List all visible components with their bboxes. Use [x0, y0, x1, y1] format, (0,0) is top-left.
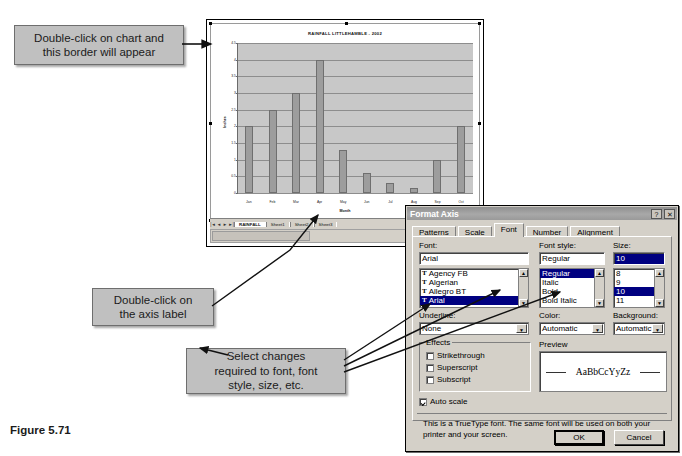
- resize-handle-middle-right[interactable]: [478, 122, 481, 125]
- font-option[interactable]: TAllegro BT: [420, 287, 519, 296]
- chart-title[interactable]: RAINFALL LITTLEHAMBLE - 2002: [211, 31, 479, 36]
- chart-bar[interactable]: [410, 188, 418, 193]
- chart-bar-cell[interactable]: [426, 43, 450, 193]
- truetype-icon: T: [422, 287, 427, 296]
- chart-y-axis-title[interactable]: Inches: [223, 116, 227, 127]
- sheet-tab-rainfall[interactable]: RAINFALL: [234, 222, 266, 227]
- scroll-down-icon[interactable]: ▼: [655, 299, 664, 307]
- chart-bar-cell[interactable]: [262, 43, 286, 193]
- scroll-down-icon[interactable]: ▼: [519, 299, 528, 307]
- close-icon[interactable]: ✕: [664, 209, 675, 219]
- scroll-down-icon[interactable]: ▼: [595, 299, 604, 307]
- chevron-down-icon[interactable]: ▼: [516, 324, 527, 333]
- sheet-tab-sheet1[interactable]: Sheet1: [266, 222, 290, 227]
- font-list-scrollbar[interactable]: ▲ ▼: [518, 269, 528, 307]
- chart-bar[interactable]: [269, 110, 277, 193]
- cancel-button[interactable]: Cancel: [614, 430, 664, 445]
- font-input[interactable]: Arial: [419, 252, 529, 265]
- size-option[interactable]: 8: [614, 269, 655, 278]
- sheet-tab-sheet3[interactable]: Sheet3: [314, 222, 338, 227]
- effect-label: Subscript: [437, 375, 470, 384]
- chart-bar[interactable]: [339, 150, 347, 193]
- font-style-input[interactable]: Regular: [539, 252, 605, 265]
- size-listbox[interactable]: 891011 ▲ ▼: [613, 268, 665, 308]
- callout-font-changes-line2: required to font, font: [215, 364, 318, 378]
- effect-label: Strikethrough: [437, 351, 485, 360]
- chart-bar-cell[interactable]: [285, 43, 309, 193]
- resize-handle-top-center[interactable]: [345, 22, 348, 25]
- callout-axis-label-line1: Double-click on: [114, 293, 193, 307]
- underline-select[interactable]: None ▼: [419, 322, 529, 335]
- font-option[interactable]: TAlgerian: [420, 278, 519, 287]
- auto-scale-checkbox[interactable]: Auto scale: [419, 397, 467, 406]
- chart-bar[interactable]: [433, 160, 441, 193]
- resize-handle-top-left[interactable]: [209, 22, 212, 25]
- font-style-option[interactable]: Regular: [540, 269, 595, 278]
- color-select[interactable]: Automatic ▼: [539, 322, 605, 335]
- font-style-option-label: Bold: [542, 287, 558, 296]
- chart-bar[interactable]: [316, 60, 324, 193]
- background-value: Automatic: [616, 324, 652, 333]
- checkbox-icon[interactable]: [426, 352, 434, 360]
- chart-bar-cell[interactable]: [403, 43, 427, 193]
- font-style-list-scrollbar[interactable]: ▲ ▼: [594, 269, 604, 307]
- chart-bar-cell[interactable]: [450, 43, 474, 193]
- font-option-label: Agency FB: [429, 269, 468, 278]
- scroll-up-icon[interactable]: ▲: [519, 269, 528, 277]
- dialog-titlebar[interactable]: Format Axis ? ✕: [407, 207, 677, 220]
- font-option[interactable]: TArial: [420, 296, 519, 305]
- chart-bar-cell[interactable]: [379, 43, 403, 193]
- effect-checkbox-subscript[interactable]: Subscript: [426, 375, 470, 384]
- font-style-listbox[interactable]: RegularItalicBoldBold Italic ▲ ▼: [539, 268, 605, 308]
- size-option[interactable]: 10: [614, 287, 655, 296]
- checkbox-icon[interactable]: [426, 364, 434, 372]
- chart-bars[interactable]: [238, 43, 473, 193]
- format-axis-dialog: Format Axis ? ✕ PatternsScaleFontNumberA…: [405, 205, 679, 452]
- dialog-tab-font[interactable]: Font: [494, 223, 524, 237]
- callout-chart-border-line1: Double-click on chart and: [34, 31, 164, 45]
- resize-handle-top-right[interactable]: [478, 22, 481, 25]
- callout-font-changes-line3: style, size, etc.: [228, 378, 303, 392]
- chart-bar[interactable]: [292, 93, 300, 193]
- chart-bar[interactable]: [386, 183, 394, 193]
- size-list-scrollbar[interactable]: ▲ ▼: [654, 269, 664, 307]
- chart-bar-cell[interactable]: [238, 43, 262, 193]
- chart-bar[interactable]: [363, 173, 371, 193]
- scroll-up-icon[interactable]: ▲: [655, 269, 664, 277]
- checkbox-icon[interactable]: [426, 376, 434, 384]
- resize-handle-middle-left[interactable]: [209, 122, 212, 125]
- font-option[interactable]: TAgency FB: [420, 269, 519, 278]
- scrollbar-thumb[interactable]: [212, 231, 310, 241]
- chart-bar-cell[interactable]: [356, 43, 380, 193]
- size-input[interactable]: 10: [613, 252, 665, 265]
- font-style-option[interactable]: Italic: [540, 278, 595, 287]
- chart-x-axis-labels[interactable]: JanFebMarAprMayJunJulAugSepOct: [237, 200, 473, 204]
- font-style-option[interactable]: Bold Italic: [540, 296, 595, 305]
- font-style-option[interactable]: Bold: [540, 287, 595, 296]
- checkbox-icon[interactable]: [419, 398, 427, 406]
- effect-checkbox-superscript[interactable]: Superscript: [426, 363, 477, 372]
- chart-bar[interactable]: [245, 126, 253, 193]
- chart-plot-area[interactable]: 00.511.522.533.544.5: [237, 43, 473, 194]
- sheet-tab-sheet2[interactable]: Sheet2: [290, 222, 314, 227]
- font-listbox[interactable]: TAgency FBTAlgerianTAllegro BTTArial ▲ ▼: [419, 268, 529, 308]
- chart-bar-cell[interactable]: [332, 43, 356, 193]
- color-label: Color:: [539, 311, 560, 320]
- chart-bar[interactable]: [457, 126, 465, 193]
- chart-plot: 00.511.522.533.544.5: [237, 43, 473, 194]
- background-select[interactable]: Automatic ▼: [613, 322, 665, 335]
- size-option[interactable]: 9: [614, 278, 655, 287]
- scroll-up-icon[interactable]: ▲: [595, 269, 604, 277]
- help-button[interactable]: ?: [651, 209, 662, 219]
- preview-rule-left: [546, 372, 566, 373]
- preview-sample-text: AaBbCcYyZz: [576, 367, 630, 377]
- size-option[interactable]: 11: [614, 296, 655, 305]
- chart-bar-cell[interactable]: [309, 43, 333, 193]
- effect-checkbox-strikethrough[interactable]: Strikethrough: [426, 351, 485, 360]
- callout-axis-label: Double-click on the axis label: [92, 288, 214, 326]
- chart-plot-frame[interactable]: RAINFALL LITTLEHAMBLE - 2002 Inches 00.5…: [210, 23, 480, 221]
- ok-button[interactable]: OK: [554, 430, 604, 445]
- x-tick-label: Mar: [284, 200, 308, 204]
- chevron-down-icon[interactable]: ▼: [652, 324, 663, 333]
- chevron-down-icon[interactable]: ▼: [592, 324, 603, 333]
